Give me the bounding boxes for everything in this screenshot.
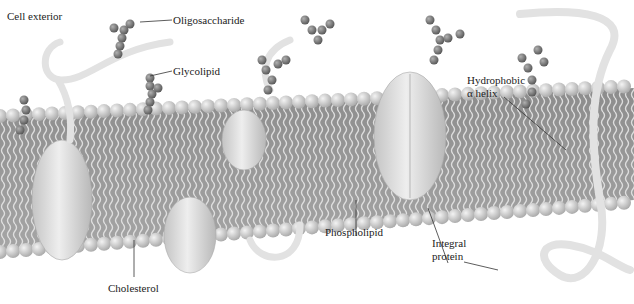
cell-membrane-diagram: Cell exterior Oligosaccharide Glycolipid… — [0, 0, 634, 304]
glycolipid-label: Glycolipid — [173, 65, 220, 77]
hydrophobic-helix-label-line2: α helix — [467, 87, 498, 99]
cholesterol-label: Cholesterol — [108, 282, 159, 294]
integral-protein-label-line2: protein — [432, 250, 463, 262]
membrane-illustration — [0, 0, 634, 304]
cell-exterior-label: Cell exterior — [7, 10, 62, 22]
phospholipid-label: Phospholipid — [325, 226, 383, 238]
integral-protein-label-line1: Integral — [432, 237, 466, 249]
oligosaccharide-label: Oligosaccharide — [173, 14, 244, 26]
hydrophobic-helix-label-line1: Hydrophobic — [467, 74, 525, 86]
